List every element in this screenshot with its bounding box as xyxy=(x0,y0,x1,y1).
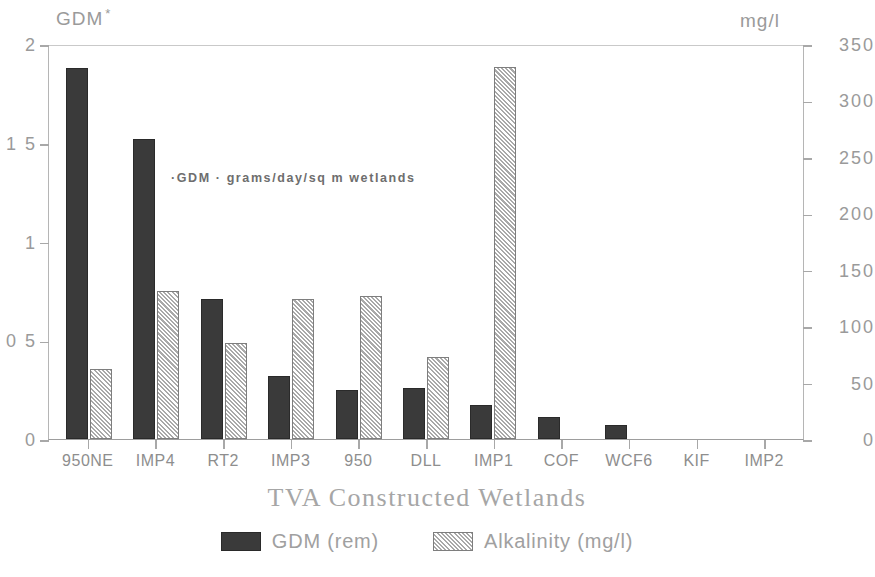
category-tick-cell xyxy=(122,440,190,450)
left-axis-tick xyxy=(40,342,49,344)
category-tick-cell xyxy=(663,440,731,450)
bar-gdm xyxy=(133,139,155,439)
category-tick-cell xyxy=(189,440,257,450)
bar-gdm xyxy=(66,68,88,439)
right-axis-tick xyxy=(803,271,812,273)
legend-item: Alkalinity (mg/l) xyxy=(433,530,633,553)
bar-gdm xyxy=(605,425,627,439)
category-tick-cell xyxy=(527,440,595,450)
right-axis-tick-label: 350 xyxy=(839,36,875,54)
right-axis-tick xyxy=(803,327,812,329)
left-axis-tick-label: 2 xyxy=(0,36,37,54)
category-label: 950 xyxy=(325,452,393,470)
left-axis-tick-label: 0 5 xyxy=(0,332,37,350)
left-axis-tick-label: 1 xyxy=(0,234,37,252)
right-axis-tick-label: 250 xyxy=(839,149,875,167)
category-label: 950NE xyxy=(54,452,122,470)
category-tick-cell xyxy=(325,440,393,450)
right-axis-tick-label: 300 xyxy=(839,92,875,110)
category-tick xyxy=(155,440,157,449)
bar-group xyxy=(527,46,594,439)
legend-swatch-icon xyxy=(433,532,473,551)
category-tick-cell xyxy=(460,440,528,450)
bar-alkalinity xyxy=(494,67,516,439)
category-tick xyxy=(88,440,90,449)
plot-area: 00 511 52 050100150200250300350 ·GDM · g… xyxy=(48,45,804,440)
bar-gdm xyxy=(403,388,425,439)
left-axis-caption-text: GDM xyxy=(56,8,103,29)
category-tick xyxy=(358,440,360,449)
bar-group xyxy=(595,46,662,439)
category-tick-cell xyxy=(595,440,663,450)
left-axis-tick xyxy=(40,45,49,47)
bar-alkalinity xyxy=(225,343,247,439)
category-tick-cell xyxy=(54,440,122,450)
category-tick-cell xyxy=(730,440,798,450)
category-tick xyxy=(291,440,293,449)
legend-label: GDM (rem) xyxy=(272,530,379,553)
bar-alkalinity xyxy=(292,299,314,439)
category-tick-row xyxy=(48,440,804,450)
right-axis-tick-label: 150 xyxy=(839,262,875,280)
legend-item: GDM (rem) xyxy=(221,530,379,553)
category-label: IMP1 xyxy=(460,452,528,470)
category-label-row: 950NEIMP4RT2IMP3950DLLIMP1COFWCF6KIFIMP2 xyxy=(48,452,804,470)
right-axis-tick xyxy=(803,384,812,386)
bar-group xyxy=(392,46,459,439)
bar-groups xyxy=(49,46,803,439)
right-axis-tick-label: 50 xyxy=(851,375,875,393)
bar-alkalinity xyxy=(427,357,449,439)
category-label: KIF xyxy=(663,452,731,470)
bar-gdm xyxy=(268,376,290,439)
legend-label: Alkalinity (mg/l) xyxy=(484,530,633,553)
bar-alkalinity xyxy=(360,296,382,439)
x-axis-title: TVA Constructed Wetlands xyxy=(0,483,854,513)
category-tick xyxy=(764,440,766,449)
right-axis-tick-label: 0 xyxy=(863,431,875,449)
left-axis-tick xyxy=(40,243,49,245)
bar-group xyxy=(257,46,324,439)
legend-swatch-icon xyxy=(221,532,261,551)
right-axis-tick xyxy=(803,440,812,442)
left-axis-tick-label: 0 xyxy=(0,431,37,449)
bar-group xyxy=(325,46,392,439)
bar-group xyxy=(730,46,797,439)
bar-group xyxy=(55,46,122,439)
bar-group xyxy=(190,46,257,439)
category-tick xyxy=(697,440,699,449)
category-tick-cell xyxy=(392,440,460,450)
right-axis-tick xyxy=(803,102,812,104)
bar-group xyxy=(460,46,527,439)
category-label: IMP2 xyxy=(730,452,798,470)
category-label: COF xyxy=(527,452,595,470)
right-axis-tick xyxy=(803,45,812,47)
bar-gdm xyxy=(470,405,492,439)
right-axis-tick-label: 200 xyxy=(839,205,875,223)
right-axis-tick xyxy=(803,158,812,160)
category-tick xyxy=(223,440,225,449)
bar-gdm xyxy=(336,390,358,439)
category-tick xyxy=(561,440,563,449)
chart-legend: GDM (rem)Alkalinity (mg/l) xyxy=(0,530,854,553)
category-label: DLL xyxy=(392,452,460,470)
left-axis-tick xyxy=(40,144,49,146)
bar-group xyxy=(662,46,729,439)
category-label: RT2 xyxy=(189,452,257,470)
right-axis-tick-label: 100 xyxy=(839,318,875,336)
left-axis-tick-label: 1 5 xyxy=(0,135,37,153)
category-tick xyxy=(629,440,631,449)
category-tick xyxy=(494,440,496,449)
category-tick xyxy=(426,440,428,449)
bar-gdm xyxy=(538,417,560,439)
bar-alkalinity xyxy=(90,369,112,439)
category-label: IMP3 xyxy=(257,452,325,470)
category-tick-cell xyxy=(257,440,325,450)
footnote-marker-icon: * xyxy=(105,6,111,21)
category-label: WCF6 xyxy=(595,452,663,470)
left-axis-caption: GDM* xyxy=(56,6,111,30)
category-label: IMP4 xyxy=(122,452,190,470)
bar-group xyxy=(122,46,189,439)
bar-alkalinity xyxy=(157,291,179,439)
right-axis-caption: mg/l xyxy=(740,10,780,32)
